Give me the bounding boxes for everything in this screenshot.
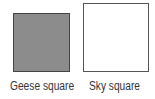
geese-square — [13, 13, 70, 72]
geese-square-label: Geese square — [10, 79, 74, 93]
sky-square — [83, 3, 149, 72]
sky-square-label: Sky square — [89, 79, 140, 93]
